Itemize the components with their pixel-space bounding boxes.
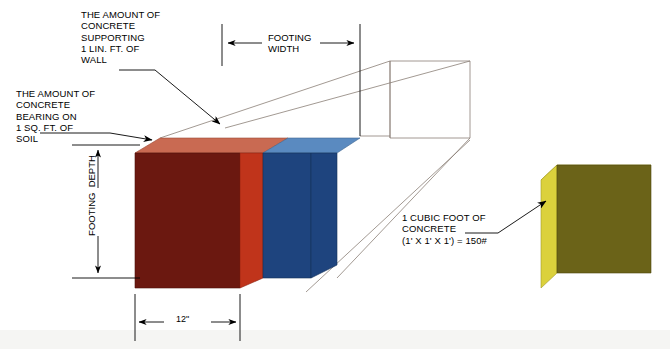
dimension-label-footing-width: FOOTING WIDTH: [268, 32, 311, 55]
dimension-footing-depth: [72, 145, 140, 278]
leader-wall-support: [119, 70, 220, 124]
yellow-concrete-cube: [541, 165, 651, 288]
callout-cubic-foot-text: 1 CUBIC FOOT OF CONCRETE (1' X 1' X 1') …: [402, 212, 487, 246]
blue-concrete-block: [263, 138, 360, 278]
dimension-label-footing-depth: FOOTING DEPTH: [86, 148, 97, 243]
callout-soil-bearing-text: THE AMOUNT OF CONCRETE BEARING ON 1 SQ. …: [16, 88, 95, 144]
dimension-label-twelve-inches: 12": [176, 314, 189, 325]
diagram-canvas: THE AMOUNT OF CONCRETE SUPPORTING 1 LIN.…: [0, 0, 670, 349]
callout-wall-support-text: THE AMOUNT OF CONCRETE SUPPORTING 1 LIN.…: [81, 9, 160, 65]
